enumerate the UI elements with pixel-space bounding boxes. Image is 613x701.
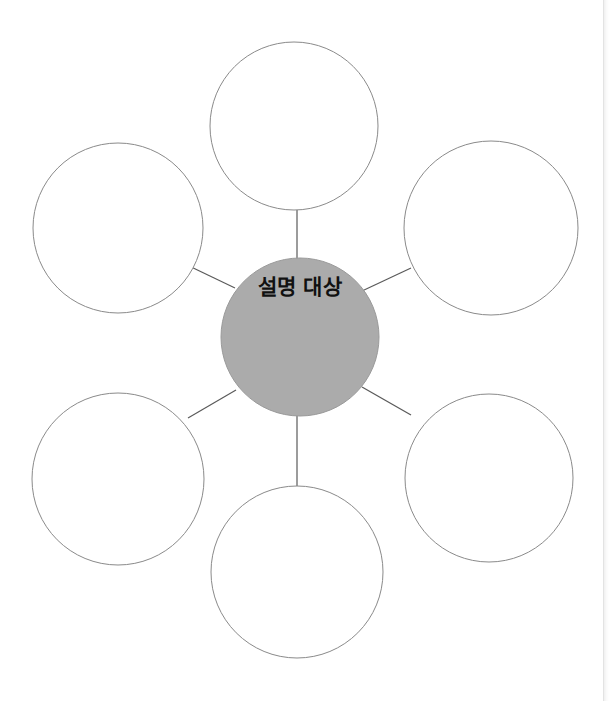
radial-bubble-map-diagram: 설명 대상 bbox=[0, 0, 613, 701]
satellite-circle-top-right[interactable] bbox=[404, 141, 578, 315]
satellite-circle-top-left[interactable] bbox=[33, 143, 203, 313]
satellite-circle-bottom[interactable] bbox=[211, 486, 383, 658]
center-node-group: 설명 대상 bbox=[221, 258, 379, 416]
satellite-circle-bottom-left[interactable] bbox=[32, 393, 204, 565]
connector-center-to-top-left bbox=[187, 265, 235, 288]
worksheet-page: 설명 대상 bbox=[0, 0, 613, 701]
satellite-circle-bottom-right[interactable] bbox=[405, 394, 573, 562]
connector-center-to-bottom-right bbox=[362, 387, 411, 415]
connector-center-to-top-right bbox=[362, 268, 411, 291]
center-label: 설명 대상 bbox=[258, 275, 342, 298]
satellite-circle-top[interactable] bbox=[210, 42, 378, 210]
connector-center-to-bottom-left bbox=[188, 390, 236, 418]
